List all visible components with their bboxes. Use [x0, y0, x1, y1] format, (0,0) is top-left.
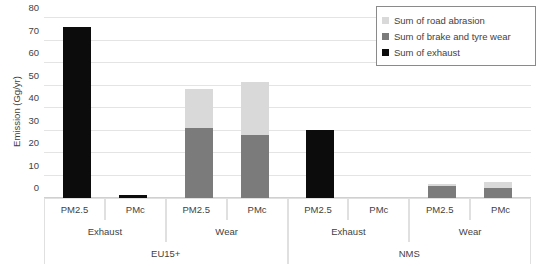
category-label-region-2: NMS [288, 242, 532, 264]
emission-stacked-bar-chart: Emission (Gg/yr) 01020304050607080 Sum o… [0, 0, 541, 266]
category-label-particle-1: PM2.5 [44, 198, 105, 220]
bar-3-segment-brake [185, 128, 213, 198]
y-axis-title: Emission (Gg/yr) [11, 42, 22, 182]
legend-label-road-abrasion: Sum of road abrasion [394, 15, 485, 26]
bar-4-segment-brake [241, 135, 269, 198]
legend-swatch-road-abrasion-icon [382, 17, 389, 24]
category-label-source-1: Exhaust [44, 220, 166, 242]
bar-8-segment-road [484, 182, 512, 188]
category-label-source-4: Wear [409, 220, 531, 242]
category-label-region-1: EU15+ [44, 242, 288, 264]
gridline-40 [44, 107, 531, 108]
legend-swatch-exhaust-icon [382, 49, 389, 56]
legend-item-brake-and-tyre-wear: Sum of brake and tyre wear [382, 28, 529, 44]
y-axis-tick-label-10: 10 [28, 159, 39, 170]
legend-label-brake-and-tyre-wear: Sum of brake and tyre wear [394, 31, 511, 42]
y-axis-tick-label-20: 20 [28, 137, 39, 148]
legend-label-exhaust: Sum of exhaust [394, 47, 460, 58]
category-label-particle-3: PM2.5 [166, 198, 227, 220]
bar-7-segment-road [428, 184, 456, 186]
category-axis-tier-source: ExhaustWearExhaustWear [44, 220, 531, 242]
y-axis-tick-label-0: 0 [34, 182, 39, 193]
y-axis-tick-label-80: 80 [28, 2, 39, 13]
category-label-particle-4: PMc [227, 198, 288, 220]
bar-7-segment-brake [428, 186, 456, 198]
category-label-source-2: Wear [166, 220, 288, 242]
category-label-particle-6: PMc [348, 198, 409, 220]
category-label-particle-8: PMc [470, 198, 531, 220]
category-label-source-3: Exhaust [288, 220, 410, 242]
category-label-particle-7: PM2.5 [409, 198, 470, 220]
y-axis-tick-label-30: 30 [28, 114, 39, 125]
y-axis-tick-label-70: 70 [28, 24, 39, 35]
category-axis-tier-particle: PM2.5PMcPM2.5PMcPM2.5PMcPM2.5PMc [44, 198, 531, 220]
bar-1-segment-exhaust [63, 27, 91, 198]
category-label-particle-5: PM2.5 [288, 198, 349, 220]
gridline-10 [44, 175, 531, 176]
gridline-30 [44, 130, 531, 131]
y-axis-tick-label-40: 40 [28, 92, 39, 103]
y-axis-tick-label-60: 60 [28, 47, 39, 58]
bar-4-segment-road [241, 82, 269, 135]
bar-3-segment-road [185, 89, 213, 128]
gridline-50 [44, 85, 531, 86]
legend-item-exhaust: Sum of exhaust [382, 44, 529, 60]
legend-item-road-abrasion: Sum of road abrasion [382, 12, 529, 28]
category-axis-tier-region: EU15+NMS [44, 242, 531, 264]
bar-8-segment-brake [484, 188, 512, 198]
legend-swatch-brake-and-tyre-wear-icon [382, 33, 389, 40]
category-axis: PM2.5PMcPM2.5PMcPM2.5PMcPM2.5PMc Exhaust… [44, 198, 531, 264]
chart-legend: Sum of road abrasion Sum of brake and ty… [376, 6, 536, 66]
bar-5-segment-exhaust [306, 130, 334, 198]
category-label-particle-2: PMc [105, 198, 166, 220]
y-axis-tick-label-50: 50 [28, 69, 39, 80]
gridline-20 [44, 152, 531, 153]
